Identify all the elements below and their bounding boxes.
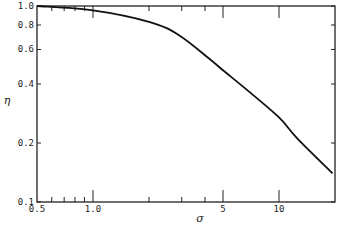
x-tick-label: 5 [220, 204, 225, 214]
x-tick-label: 10 [274, 204, 285, 214]
x-tick-label: 1.0 [85, 204, 101, 214]
x-tick-label: 0.5 [29, 204, 45, 214]
y-tick-label: 0.8 [18, 20, 34, 30]
y-tick-label: 0.6 [18, 44, 34, 54]
x-axis-title: σ [196, 212, 204, 225]
y-axis-title: η [4, 94, 11, 107]
y-tick-label: 0.2 [18, 138, 34, 148]
plot-frame [37, 6, 335, 202]
chart: 0.10.20.40.60.81.00.51.0510ση [0, 0, 338, 226]
y-tick-label: 0.4 [18, 79, 34, 89]
curve-eta-vs-sigma [37, 6, 333, 173]
y-tick-label: 1.0 [18, 1, 34, 11]
